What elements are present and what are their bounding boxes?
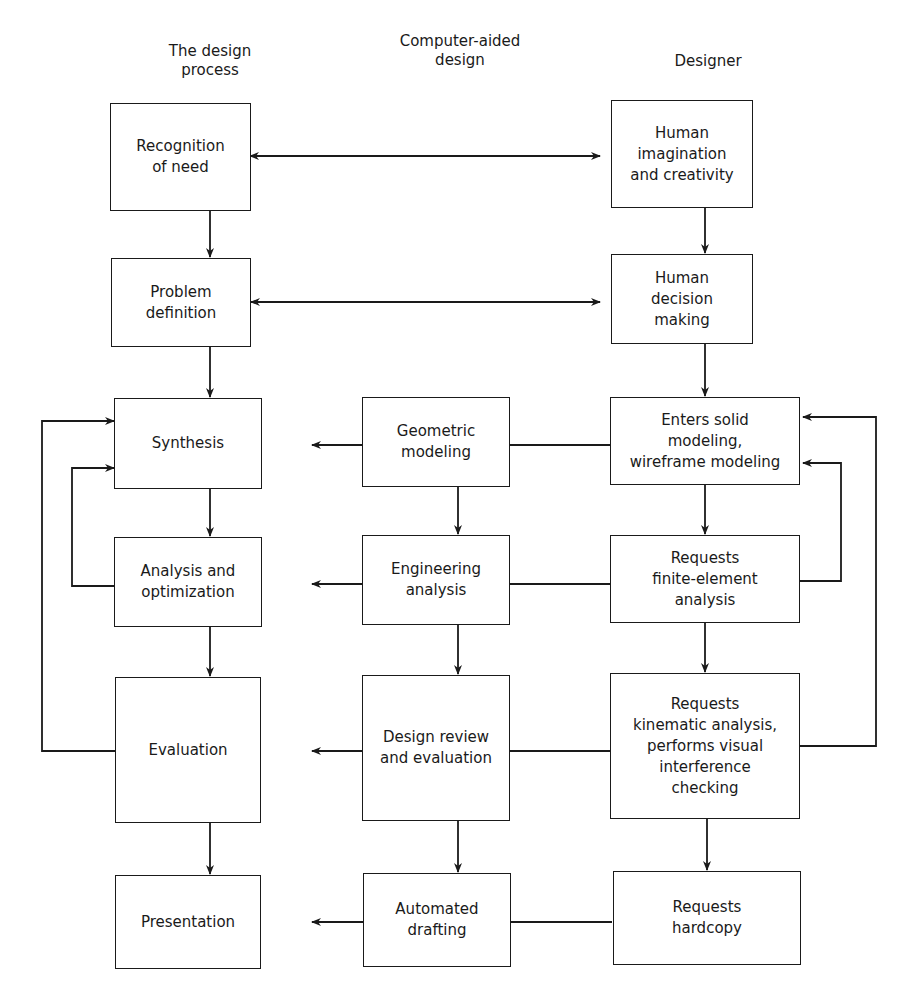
box-label: Requests hardcopy <box>672 897 742 939</box>
box-evaluation: Evaluation <box>115 677 261 823</box>
box-label: Requests finite-element analysis <box>652 548 758 611</box>
box-label: Evaluation <box>148 740 227 761</box>
box-synthesis: Synthesis <box>114 398 262 489</box>
box-engineering-analysis: Engineering analysis <box>362 535 510 625</box>
box-requests-finite-element-analysis: Requests finite-element analysis <box>610 535 800 623</box>
box-requests-hardcopy: Requests hardcopy <box>613 871 801 965</box>
box-label: Presentation <box>141 912 235 933</box>
box-design-review-and-evaluation: Design review and evaluation <box>362 675 510 821</box>
box-human-decision-making: Human decision making <box>611 254 753 344</box>
box-analysis-and-optimization: Analysis and optimization <box>114 537 262 627</box>
box-recognition-of-need: Recognition of need <box>110 103 251 211</box>
box-human-imagination-and-creativity: Human imagination and creativity <box>611 100 753 208</box>
box-geometric-modeling: Geometric modeling <box>362 397 510 487</box>
box-label: Automated drafting <box>395 899 478 941</box>
box-label: Problem definition <box>146 282 217 324</box>
box-automated-drafting: Automated drafting <box>363 873 511 967</box>
box-label: Enters solid modeling, wireframe modelin… <box>630 410 781 473</box>
box-label: Analysis and optimization <box>141 561 236 603</box>
box-enters-solid-modeling: Enters solid modeling, wireframe modelin… <box>610 397 800 485</box>
box-label: Design review and evaluation <box>380 727 492 769</box>
box-label: Geometric modeling <box>397 421 475 463</box>
box-problem-definition: Problem definition <box>111 258 251 347</box>
box-label: Human decision making <box>651 268 713 331</box>
box-label: Human imagination and creativity <box>630 123 733 186</box>
box-label: Requests kinematic analysis, performs vi… <box>633 694 777 799</box>
box-label: Engineering analysis <box>391 559 481 601</box>
box-presentation: Presentation <box>115 875 261 969</box>
box-label: Recognition of need <box>136 136 224 178</box>
box-label: Synthesis <box>152 433 224 454</box>
box-requests-kinematic-analysis: Requests kinematic analysis, performs vi… <box>610 673 800 819</box>
